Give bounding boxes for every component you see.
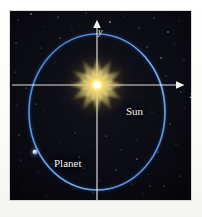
star [185,108,186,109]
star [180,176,181,177]
star [41,48,42,49]
star [49,81,50,82]
star [68,178,69,179]
star [154,18,155,19]
colored-star [78,156,79,157]
star [141,96,142,97]
star [169,123,170,124]
star [184,60,185,61]
star [143,194,144,195]
sun-starburst [63,51,131,119]
star [33,128,34,129]
colored-star [149,185,150,186]
star [160,57,161,58]
star [21,160,22,161]
orbit-figure: y x Sun Planet [0,0,202,217]
star [18,134,19,135]
star [44,110,45,111]
planet-disc [33,150,38,155]
star [90,146,91,147]
star [25,87,26,88]
star [148,174,149,175]
star [93,193,94,194]
star [30,13,31,14]
star [45,27,46,28]
star [115,169,116,170]
star [167,31,168,32]
star [15,72,16,73]
star [72,30,73,31]
star [121,150,122,151]
star [100,181,101,182]
star [152,112,153,113]
star [17,105,18,106]
star [163,185,164,186]
star [84,168,85,169]
colored-star [35,103,36,104]
star [138,27,139,28]
star [179,21,180,22]
star [75,133,76,134]
colored-star [59,37,60,38]
star [29,56,30,57]
star [130,66,131,67]
star [176,144,177,145]
star [112,125,113,126]
star [38,172,39,173]
star [51,163,52,164]
star [64,98,65,99]
orbit-diagram-svg [10,11,191,200]
star [132,184,133,185]
star [55,62,56,63]
star [137,140,138,141]
star [146,46,147,47]
star [60,142,61,143]
star [24,190,25,191]
colored-star [136,158,138,160]
star [124,16,125,17]
star [46,196,47,197]
star [166,76,167,77]
sun-hotspot [93,81,100,88]
star [105,135,106,136]
planet-body [31,148,39,156]
star [15,42,16,43]
star [18,20,19,21]
starfield-panel: y x Sun Planet [10,11,191,200]
star [174,44,175,45]
star [57,16,58,17]
star [180,91,181,92]
star [86,13,87,14]
star [109,21,111,23]
